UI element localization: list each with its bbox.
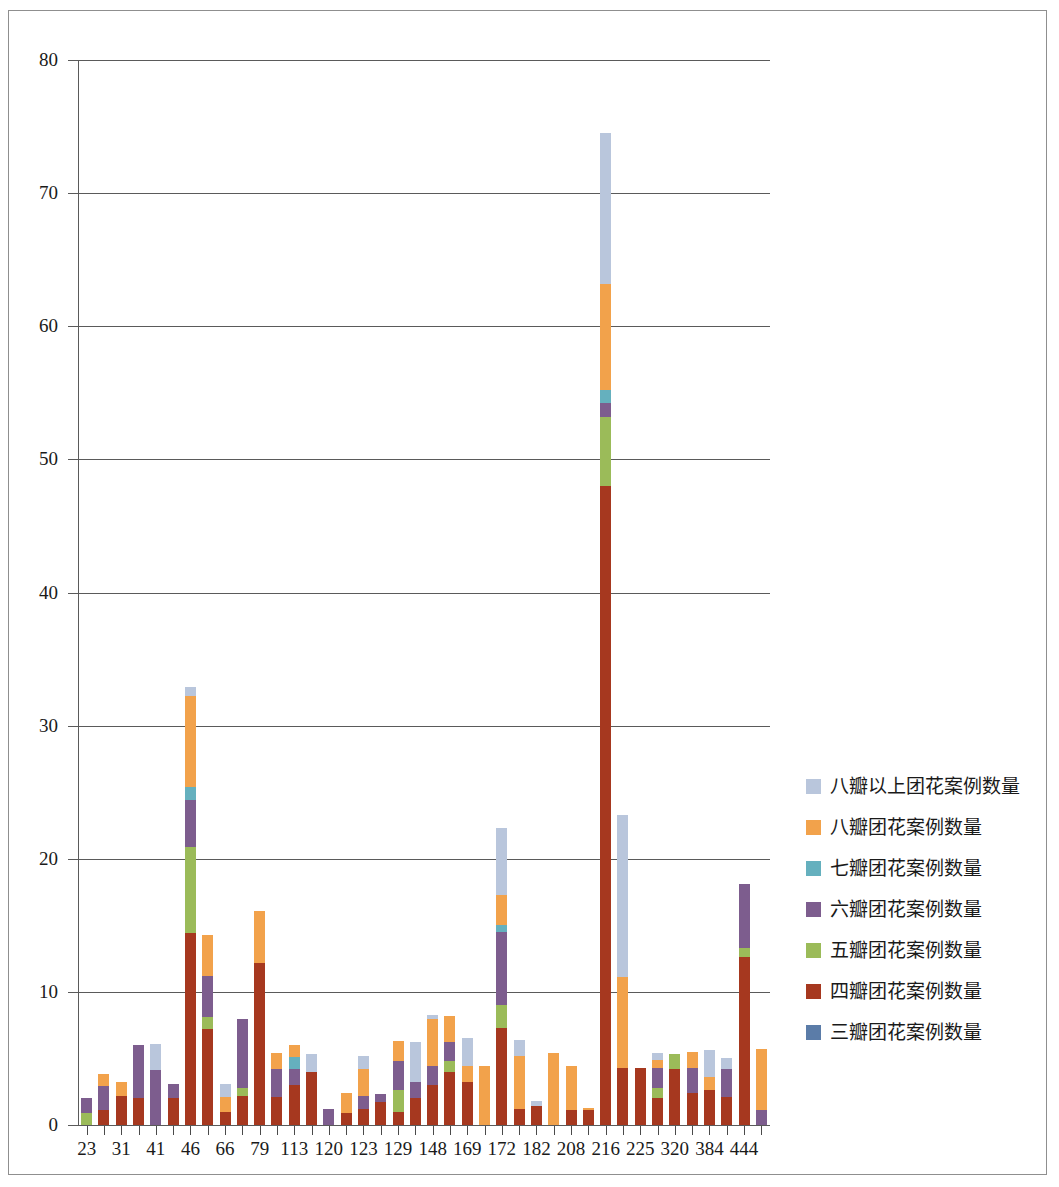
x-tick-mark	[588, 1126, 589, 1135]
bar-segment	[150, 1070, 161, 1125]
bar-segment	[98, 1074, 109, 1086]
x-tick-mark	[190, 1126, 191, 1135]
bar-segment	[202, 935, 213, 976]
bar	[168, 1084, 179, 1125]
bar-segment	[341, 1093, 352, 1113]
bar-segment	[600, 284, 611, 391]
x-tick-label: 444	[724, 1138, 764, 1160]
bar	[375, 1094, 386, 1125]
x-axis-line	[78, 1125, 770, 1126]
bar	[116, 1082, 127, 1125]
x-tick-mark	[519, 1126, 520, 1135]
y-tick-label: 70	[18, 183, 58, 202]
bar-segment	[669, 1069, 680, 1125]
legend-swatch	[806, 984, 821, 999]
bar-segment	[185, 800, 196, 847]
x-tick-mark	[277, 1126, 278, 1135]
bar-segment	[289, 1085, 300, 1125]
bar-segment	[358, 1096, 369, 1109]
bar	[583, 1108, 594, 1125]
bar	[462, 1038, 473, 1125]
bar-segment	[81, 1113, 92, 1125]
bar-segment	[496, 932, 507, 1005]
bar-segment	[133, 1098, 144, 1125]
legend-item: 七瓣团花案例数量	[806, 848, 1046, 889]
x-tick-mark	[104, 1126, 105, 1135]
bar-segment	[462, 1066, 473, 1082]
x-tick-mark	[692, 1126, 693, 1135]
bar-segment	[687, 1068, 698, 1093]
x-tick-mark	[398, 1126, 399, 1135]
bar	[289, 1045, 300, 1125]
bar	[133, 1045, 144, 1125]
x-tick-mark	[554, 1126, 555, 1135]
bar-segment	[531, 1106, 542, 1125]
legend-label: 四瓣团花案例数量	[830, 982, 982, 1001]
x-tick-mark	[242, 1126, 243, 1135]
bar-segment	[479, 1066, 490, 1125]
bar-segment	[116, 1096, 127, 1125]
x-tick-mark	[415, 1126, 416, 1135]
x-tick-mark	[260, 1126, 261, 1135]
gridline	[78, 859, 770, 860]
bar-segment	[168, 1098, 179, 1125]
legend-item: 六瓣团花案例数量	[806, 889, 1046, 930]
chart-figure: 01020304050607080 2331414666791131201231…	[0, 0, 1059, 1187]
bar	[687, 1052, 698, 1125]
x-tick-mark	[485, 1126, 486, 1135]
bar-segment	[185, 787, 196, 800]
bar-segment	[427, 1019, 438, 1067]
bar	[479, 1066, 490, 1125]
bar-segment	[756, 1049, 767, 1110]
bar	[566, 1066, 577, 1125]
legend-swatch	[806, 820, 821, 835]
bar-segment	[635, 1068, 646, 1125]
bar-segment	[185, 687, 196, 696]
bar-segment	[427, 1085, 438, 1125]
x-tick-mark	[709, 1126, 710, 1135]
y-tick-mark	[68, 459, 78, 460]
bar	[202, 935, 213, 1125]
y-tick-mark	[68, 1125, 78, 1126]
legend-swatch	[806, 943, 821, 958]
legend-swatch	[806, 902, 821, 917]
x-tick-mark	[329, 1126, 330, 1135]
bar-segment	[444, 1061, 455, 1072]
gridline	[78, 593, 770, 594]
bar	[635, 1068, 646, 1125]
bar	[254, 911, 265, 1125]
bar	[185, 687, 196, 1125]
bar	[81, 1098, 92, 1125]
bar-segment	[444, 1016, 455, 1043]
bar-segment	[652, 1053, 663, 1060]
bar-segment	[393, 1041, 404, 1061]
bar-segment	[427, 1066, 438, 1085]
bar	[704, 1050, 715, 1125]
bar-segment	[462, 1082, 473, 1125]
bar-segment	[669, 1054, 680, 1069]
legend-label: 七瓣团花案例数量	[830, 859, 982, 878]
bar-segment	[600, 390, 611, 403]
bar	[531, 1101, 542, 1125]
bar-segment	[98, 1110, 109, 1125]
y-tick-label: 10	[18, 982, 58, 1001]
legend-item: 八瓣以上团花案例数量	[806, 766, 1046, 807]
bar	[306, 1054, 317, 1125]
chart-legend: 八瓣以上团花案例数量八瓣团花案例数量七瓣团花案例数量六瓣团花案例数量五瓣团花案例…	[806, 766, 1046, 1053]
legend-swatch	[806, 779, 821, 794]
bar-segment	[496, 828, 507, 895]
y-tick-label: 60	[18, 316, 58, 335]
x-tick-mark	[87, 1126, 88, 1135]
bar-segment	[531, 1101, 542, 1106]
bar-segment	[496, 1005, 507, 1028]
bar-segment	[687, 1093, 698, 1125]
bar-segment	[237, 1096, 248, 1125]
y-tick-label: 30	[18, 716, 58, 735]
legend-label: 三瓣团花案例数量	[830, 1023, 982, 1042]
bar	[721, 1058, 732, 1125]
x-tick-mark	[294, 1126, 295, 1135]
bar-segment	[739, 884, 750, 948]
bar-segment	[617, 815, 628, 977]
x-tick-mark	[450, 1126, 451, 1135]
y-tick-mark	[68, 593, 78, 594]
